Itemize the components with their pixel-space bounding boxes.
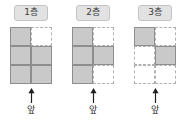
grid-cell — [10, 27, 31, 46]
grid-cell — [134, 65, 155, 84]
grid-cell — [72, 27, 93, 46]
floor-plan-diagram: 1층 앞 2층 — [0, 0, 186, 132]
grid-cell — [31, 65, 52, 84]
floor-grid-3 — [134, 27, 176, 84]
grid-cell — [10, 46, 31, 65]
front-indicator-2: 앞 — [89, 88, 98, 116]
up-arrow-icon — [151, 88, 160, 103]
grid-cell — [31, 46, 52, 65]
grid-cell — [31, 27, 52, 46]
floor-label-3: 3층 — [138, 5, 172, 21]
grid-cell — [10, 65, 31, 84]
grid-cell — [93, 46, 114, 65]
grid-cell — [134, 46, 155, 65]
grid-cell — [155, 46, 176, 65]
up-arrow-icon — [27, 88, 36, 103]
grid-cell — [72, 65, 93, 84]
grid-cell — [155, 27, 176, 46]
floor-group-3: 3층 앞 — [124, 0, 186, 132]
up-arrow-icon — [89, 88, 98, 103]
floor-label-1: 1층 — [14, 5, 48, 21]
floor-grid-1 — [10, 27, 52, 84]
front-indicator-3: 앞 — [151, 88, 160, 116]
floor-group-1: 1층 앞 — [0, 0, 62, 132]
front-label-3: 앞 — [151, 105, 159, 116]
grid-cell — [134, 27, 155, 46]
front-label-2: 앞 — [89, 105, 97, 116]
floor-grid-2 — [72, 27, 114, 84]
grid-cell — [93, 65, 114, 84]
grid-cell — [93, 27, 114, 46]
grid-cell — [155, 65, 176, 84]
front-indicator-1: 앞 — [27, 88, 36, 116]
front-label-1: 앞 — [27, 105, 35, 116]
grid-cell — [72, 46, 93, 65]
floor-label-2: 2층 — [76, 5, 110, 21]
floor-group-2: 2층 앞 — [62, 0, 124, 132]
